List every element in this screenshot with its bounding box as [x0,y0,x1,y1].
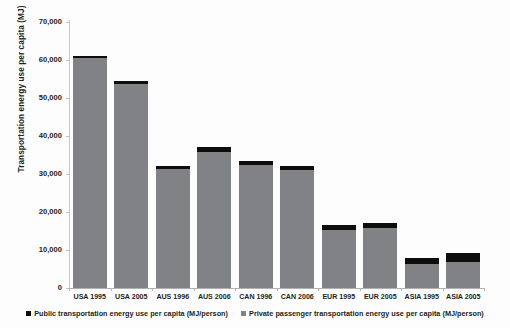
x-axis-label: ASIA 2005 [443,293,485,301]
bar-stack[interactable] [73,56,107,288]
x-axis-tick [69,288,70,291]
y-axis-label: 50,000 [39,93,62,102]
bar-segment-private[interactable] [446,262,480,288]
bar-segment-private[interactable] [197,152,231,288]
bar-stack[interactable] [156,166,190,288]
x-axis-tick [484,288,485,291]
y-axis-label: 0 [58,283,62,292]
legend-label-public: Public transportation energy use per cap… [34,309,228,318]
bar-stack[interactable] [280,166,314,288]
x-axis-tick [443,288,444,291]
stacked-bar-chart: Transportation energy use per capita (MJ… [0,0,510,328]
plot-area [69,22,484,288]
bar-segment-private[interactable] [156,169,190,288]
bar-segment-public[interactable] [446,253,480,261]
x-axis-label: USA 2005 [111,293,153,301]
y-axis-label: 30,000 [39,169,62,178]
x-axis-tick [194,288,195,291]
bar-segment-private[interactable] [114,84,148,288]
x-axis-tick [235,288,236,291]
x-axis-tick [152,288,153,291]
bar-stack[interactable] [446,253,480,288]
bar-segment-private[interactable] [73,58,107,288]
private-swatch-icon [241,311,246,316]
bar-stack[interactable] [114,81,148,288]
x-axis-label: AUS 2006 [194,293,236,301]
x-axis-label: EUR 1995 [318,293,360,301]
x-axis-label: CAN 1996 [235,293,277,301]
bar-stack[interactable] [322,225,356,288]
legend-label-private: Private passenger transportation energy … [249,309,484,318]
legend-item-public[interactable]: Public transportation energy use per cap… [26,309,228,318]
bar-stack[interactable] [405,258,439,288]
bar-stack[interactable] [197,147,231,288]
bar-stack[interactable] [239,161,273,288]
public-swatch-icon [26,311,31,316]
x-axis-tick [360,288,361,291]
bar-segment-private[interactable] [280,170,314,288]
x-axis-label: ASIA 1995 [401,293,443,301]
x-axis-tick [277,288,278,291]
x-axis-label: AUS 1996 [152,293,194,301]
bar-segment-private[interactable] [322,230,356,288]
bar-segment-private[interactable] [239,165,273,288]
bar-segment-private[interactable] [405,264,439,288]
bar-stack[interactable] [363,223,397,288]
y-axis-title: Transportation energy use per capita (MJ… [17,0,35,189]
x-axis-label: EUR 2005 [360,293,402,301]
chart-legend: Public transportation energy use per cap… [0,309,510,318]
bar-segment-private[interactable] [363,228,397,288]
y-axis-label: 60,000 [39,55,62,64]
bar-segment-public[interactable] [405,258,439,265]
x-axis-tick [318,288,319,291]
y-axis-label: 70,000 [39,17,62,26]
y-axis-label: 40,000 [39,131,62,140]
x-axis-label: USA 1995 [69,293,111,301]
y-axis-label: 20,000 [39,207,62,216]
x-axis-label: CAN 2006 [277,293,319,301]
x-axis-tick [111,288,112,291]
y-axis-label: 10,000 [39,245,62,254]
legend-item-private[interactable]: Private passenger transportation energy … [241,309,484,318]
x-axis-tick [401,288,402,291]
